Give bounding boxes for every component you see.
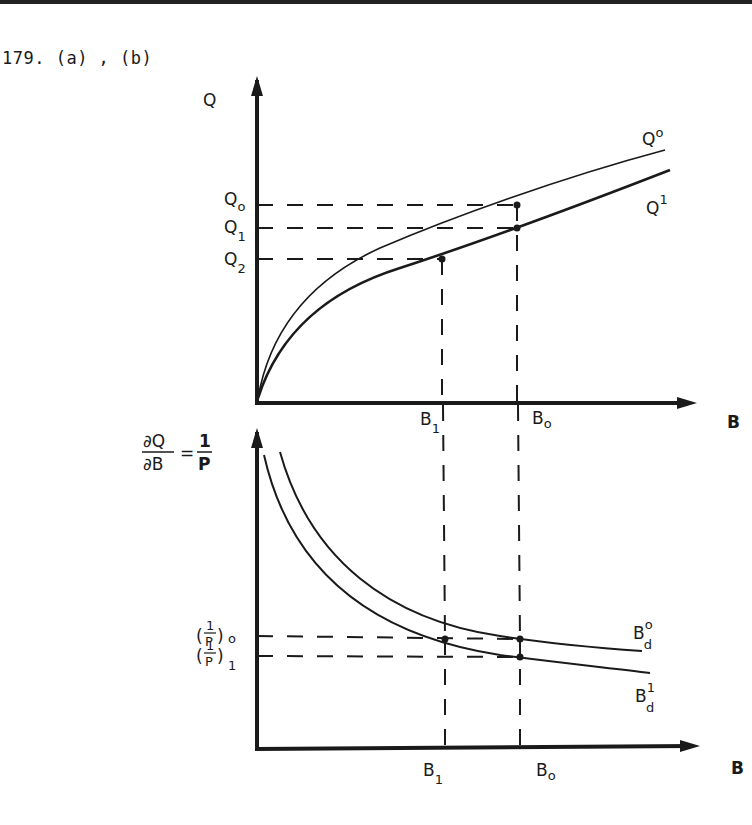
top-y-axis-label: Q xyxy=(203,90,216,110)
point-B0-Bd0 xyxy=(517,636,524,643)
label-Q0: Qo xyxy=(224,189,245,214)
curve-Q0 xyxy=(258,150,665,398)
guide-inv-P0 xyxy=(257,636,520,639)
point-B1-Bd0 xyxy=(442,636,449,643)
bottom-x-axis-label: B xyxy=(731,758,744,778)
diagram: Q B Qo Q1 Qo Q1 Q2 B1 Bo ∂Q ∂B xyxy=(0,0,752,825)
bottom-x-axis-arrow xyxy=(680,740,700,752)
label-inv-P0: ( 1 P ) o xyxy=(196,618,236,649)
top-y-axis-arrow xyxy=(251,76,263,96)
dq-numerator: ∂Q xyxy=(143,431,165,451)
point-B0-Bd1 xyxy=(517,654,524,661)
bottom-x-axis xyxy=(255,746,692,749)
label-curve-Q1: Q1 xyxy=(646,192,668,218)
num: 1 xyxy=(206,638,214,653)
guide-B1-link xyxy=(443,405,445,639)
curve-Bd0 xyxy=(280,452,642,651)
curve-Bd1 xyxy=(264,455,650,673)
label-B1-bottom: B1 xyxy=(423,760,443,787)
bottom-y-axis-arrow xyxy=(251,428,263,448)
num: 1 xyxy=(206,618,214,633)
label-B0-bottom: Bo xyxy=(536,760,556,783)
top-panel: Q B Qo Q1 Qo Q1 Q2 B1 Bo xyxy=(203,76,740,436)
label-curve-Bd1: B1d xyxy=(635,680,655,715)
point-Q2 xyxy=(439,256,446,263)
guide-inv-P1 xyxy=(257,656,520,657)
paren-close: ) xyxy=(217,626,224,646)
label-Q1: Q1 xyxy=(224,217,246,244)
sub: o xyxy=(228,631,236,646)
label-Q2: Q2 xyxy=(224,249,246,276)
rhs-numerator: 1 xyxy=(199,431,211,451)
guide-B0-link xyxy=(518,405,520,639)
bottom-panel: ∂Q ∂B = 1 P B ( 1 P ) o ( 1 P ) 1 Bod xyxy=(142,405,744,787)
db-denominator: ∂B xyxy=(143,454,163,474)
equals-sign: = xyxy=(180,443,194,463)
label-curve-Bd0: Bod xyxy=(633,617,653,652)
label-B0-top: Bo xyxy=(532,408,552,431)
paren-close: ) xyxy=(217,646,224,666)
top-x-axis-arrow xyxy=(677,397,697,409)
paren-open: ( xyxy=(196,626,203,646)
point-Q1 xyxy=(514,225,521,232)
rhs-denominator: P xyxy=(198,454,210,474)
top-x-axis-label: B xyxy=(727,412,740,432)
sub: 1 xyxy=(228,658,236,673)
den: P xyxy=(205,654,213,669)
label-curve-Q0: Qo xyxy=(642,125,663,149)
label-B1-top: B1 xyxy=(420,409,440,436)
paren-open: ( xyxy=(196,646,203,666)
bottom-y-axis-label: ∂Q ∂B = 1 P xyxy=(142,431,212,474)
point-Q0 xyxy=(514,202,521,209)
